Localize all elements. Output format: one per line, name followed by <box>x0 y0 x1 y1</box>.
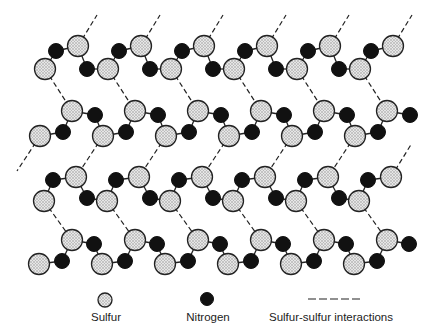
nitrogen-atom <box>112 44 127 59</box>
sn-bonds <box>39 46 410 264</box>
sulfur-atom <box>30 126 51 147</box>
nitrogen-atom <box>206 62 221 77</box>
nitrogen-atom <box>143 62 158 77</box>
nitrogen-atom <box>339 237 354 252</box>
nitrogen-atom <box>119 125 134 140</box>
nitrogen-atom <box>182 125 197 140</box>
nitrogen-atom <box>88 108 103 123</box>
sulfur-atom <box>218 254 239 275</box>
sulfur-atom <box>62 230 83 251</box>
nitrogen-atom <box>402 237 417 252</box>
nitrogen-atom <box>150 237 165 252</box>
nitrogen-atom <box>181 254 196 269</box>
nitrogen-atom <box>277 108 292 123</box>
sulfur-atom <box>66 167 87 188</box>
sulfur-atom <box>344 254 365 275</box>
nitrogen-atom <box>361 173 376 188</box>
sulfur-atom <box>129 167 150 188</box>
sulfur-atom <box>92 254 113 275</box>
nitrogen-atom <box>151 108 166 123</box>
nitrogen-atom <box>307 254 322 269</box>
nitrogen-atom <box>80 62 95 77</box>
sulfur-atom <box>156 126 177 147</box>
nitrogen-atom <box>370 254 385 269</box>
nitrogen-atom <box>332 191 347 206</box>
sulfur-atom <box>255 167 276 188</box>
sulfur-atom <box>377 230 398 251</box>
nitrogen-atom <box>56 125 71 140</box>
sulfur-atom <box>377 101 398 122</box>
sulfur-atom <box>155 254 176 275</box>
sulfur-atom <box>320 36 341 57</box>
sulfur-atom <box>125 101 146 122</box>
nitrogen-atom <box>172 173 187 188</box>
nitrogen-atom <box>238 44 253 59</box>
nitrogen-atom <box>214 108 229 123</box>
sulfur-atom <box>282 126 303 147</box>
sulfur-atom <box>192 167 213 188</box>
sulfur-atom <box>131 36 152 57</box>
sulfur-atom <box>318 167 339 188</box>
nitrogen-atom <box>244 254 259 269</box>
sulfur-atom <box>224 59 245 80</box>
legend-sulfur-icon <box>98 293 112 307</box>
nitrogen-atom <box>403 108 418 123</box>
nitrogen-atom <box>245 125 260 140</box>
sulfur-atom <box>286 191 307 212</box>
sulfur-atom <box>350 59 371 80</box>
nitrogen-atom <box>213 237 228 252</box>
sulfur-atom <box>68 36 89 57</box>
nitrogen-atom <box>87 237 102 252</box>
sulfur-atom <box>314 101 335 122</box>
sulfur-atom <box>160 191 181 212</box>
sulfur-atom <box>97 191 118 212</box>
nitrogen-atom <box>340 108 355 123</box>
sulfur-atom <box>34 191 55 212</box>
legend-nitrogen-icon <box>201 293 214 306</box>
nitrogen-atom <box>269 191 284 206</box>
sulfur-atom <box>383 36 404 57</box>
sulfur-atom <box>93 126 114 147</box>
sulfur-atom <box>257 36 278 57</box>
nitrogen-atom <box>143 191 158 206</box>
sulfur-atom <box>314 230 335 251</box>
nitrogen-atom <box>269 62 284 77</box>
nitrogen-atom <box>301 44 316 59</box>
sulfur-atom <box>62 101 83 122</box>
nitrogen-atom <box>118 254 133 269</box>
nitrogen-atom <box>332 62 347 77</box>
legend: Sulfur Nitrogen Sulfur-sulfur interactio… <box>91 293 393 324</box>
nitrogen-atom <box>308 125 323 140</box>
sulfur-atom <box>35 59 56 80</box>
nitrogen-atom <box>55 254 70 269</box>
sulfur-atom <box>219 126 240 147</box>
sulfur-atom <box>188 101 209 122</box>
legend-interaction-label: Sulfur-sulfur interactions <box>269 311 393 323</box>
nitrogen-atom <box>298 173 313 188</box>
legend-sulfur-label: Sulfur <box>91 311 121 323</box>
sulfur-atom <box>29 254 50 275</box>
nitrogen-atom <box>206 191 221 206</box>
sulfur-nitride-structure-diagram: Sulfur Nitrogen Sulfur-sulfur interactio… <box>0 0 430 335</box>
sulfur-atom <box>161 59 182 80</box>
nitrogen-atom <box>175 44 190 59</box>
nitrogen-atom <box>46 173 61 188</box>
nitrogen-atom <box>80 191 95 206</box>
sulfur-atom <box>194 36 215 57</box>
nitrogen-atom <box>371 125 386 140</box>
nitrogen-atom <box>235 173 250 188</box>
atoms <box>29 36 418 275</box>
sulfur-atom <box>223 191 244 212</box>
sulfur-atom <box>345 126 366 147</box>
sulfur-atom <box>349 191 370 212</box>
nitrogen-atom <box>276 237 291 252</box>
nitrogen-atom <box>49 44 64 59</box>
sulfur-atom <box>125 230 146 251</box>
nitrogen-atom <box>109 173 124 188</box>
legend-nitrogen-label: Nitrogen <box>186 311 229 323</box>
nitrogen-atom <box>364 44 379 59</box>
sulfur-atom <box>381 167 402 188</box>
sulfur-atom <box>251 101 272 122</box>
sulfur-atom <box>188 230 209 251</box>
sulfur-atom <box>281 254 302 275</box>
